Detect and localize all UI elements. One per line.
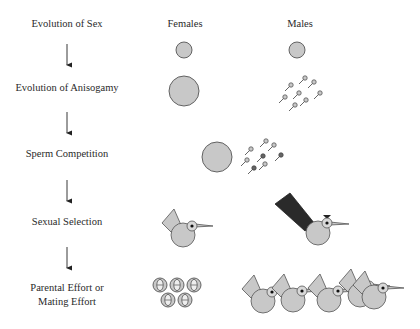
egg-icon bbox=[202, 142, 232, 172]
sperm-group-icon bbox=[279, 76, 322, 111]
female-bird-icon bbox=[162, 209, 213, 247]
egg-icon bbox=[169, 76, 199, 106]
competing-sperm-group-icon bbox=[241, 139, 283, 174]
male-gamete-icon bbox=[289, 42, 305, 58]
bird-flock-icon bbox=[242, 269, 404, 313]
male-bird-icon bbox=[275, 193, 349, 245]
female-gamete-icon bbox=[176, 42, 192, 58]
diagram-artwork bbox=[0, 0, 420, 329]
egg-clutch-icon bbox=[153, 278, 201, 307]
